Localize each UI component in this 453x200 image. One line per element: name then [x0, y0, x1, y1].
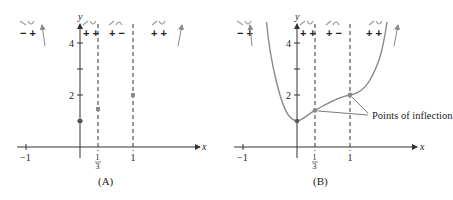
sign-label-region-3: + −: [326, 27, 342, 39]
x-tick-label-1: 1: [131, 152, 136, 163]
concave-up-glyph: [90, 21, 96, 24]
concave-up-glyph: [28, 21, 34, 24]
y-axis-label: y: [294, 11, 300, 22]
sign-label-region-2: + +: [83, 27, 99, 39]
trend-arrow-right: [178, 25, 182, 46]
y-tick-label-2: 2: [286, 90, 291, 101]
concave-up-glyph: [245, 21, 251, 24]
caption-b: (B): [313, 175, 328, 188]
sign-label-region-3: + −: [109, 27, 125, 39]
x-axis-label: x: [201, 141, 207, 152]
x-tick-label-third-den: 3: [313, 162, 317, 171]
sign-chart-b: [237, 21, 382, 25]
sign-label-region-4: + +: [366, 27, 382, 39]
concave-up-glyph: [159, 21, 165, 24]
sign-chart-a: [20, 21, 165, 25]
panel-b: x y 4 2 −1 1 3 1 Points of inflection: [234, 11, 453, 188]
x-tick-label-third-num: 1: [313, 153, 317, 162]
concave-up-glyph: [376, 21, 382, 24]
sign-label-region-2: + +: [300, 27, 316, 39]
point-inflection-third: [313, 108, 318, 113]
point-min: [295, 119, 299, 123]
x-tick-label-third-den: 3: [96, 162, 100, 171]
x-tick-label-1: 1: [348, 152, 353, 163]
y-tick-label-4: 4: [69, 38, 74, 49]
figure-canvas: x y 4 2 −1 1 3 1: [0, 0, 453, 200]
increasing-glyph: [83, 21, 88, 25]
trend-arrow-right: [394, 25, 398, 46]
point-inflection-one: [348, 93, 353, 98]
sign-label-region-4: + +: [151, 27, 167, 39]
increasing-glyph: [326, 21, 331, 25]
decreasing-glyph: [20, 21, 26, 25]
inflection-annotation: Points of inflection: [372, 110, 453, 121]
caption-a: (A): [98, 175, 114, 188]
y-tick-label-4: 4: [286, 38, 291, 49]
increasing-glyph: [109, 21, 114, 25]
point-inflection-third: [96, 107, 100, 111]
x-tick-label-neg1: −1: [237, 152, 248, 163]
concave-down-glyph: [333, 22, 339, 25]
point-inflection-one: [131, 93, 135, 97]
leader-line-one: [352, 97, 368, 113]
increasing-glyph: [300, 21, 305, 25]
increasing-glyph: [369, 21, 374, 25]
y-tick-label-2: 2: [69, 90, 74, 101]
leader-line-third: [318, 111, 368, 115]
decreasing-glyph: [237, 21, 243, 25]
x-tick-label-neg1: −1: [20, 152, 31, 163]
panel-a: x y 4 2 −1 1 3 1: [17, 11, 207, 188]
point-min: [78, 119, 82, 123]
concave-down-glyph: [116, 22, 122, 25]
x-axis-label: x: [419, 141, 425, 152]
increasing-glyph: [152, 21, 157, 25]
y-axis-label: y: [77, 11, 83, 22]
trend-arrow-left: [42, 25, 45, 46]
x-tick-label-third-num: 1: [96, 153, 100, 162]
sign-label-region-1: − +: [20, 27, 36, 39]
concave-up-glyph: [307, 21, 313, 24]
